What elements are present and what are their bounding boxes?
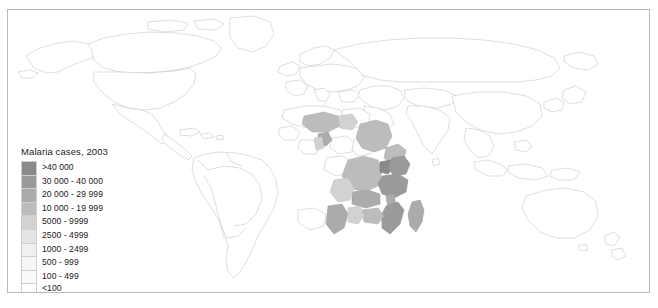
legend-swatch-20000-29999 (21, 188, 37, 202)
legend-swatch-5000-9999 (21, 215, 37, 229)
legend-swatch-under-100 (21, 283, 37, 293)
legend-item: <100 No reported deaths from malaria (21, 283, 145, 293)
region-ghana (314, 137, 324, 150)
region-sudan (356, 120, 392, 152)
legend-label-2500-4999: 2500 - 4999 (37, 229, 88, 243)
legend-label-5000-9999: 5000 - 9999 (37, 215, 88, 229)
legend-item: 10 000 - 19 999 (21, 202, 145, 216)
legend-item: 5000 - 9999 (21, 215, 145, 229)
legend-item: 2500 - 4999 (21, 229, 145, 243)
legend-label-over-40000: >40 000 (37, 161, 74, 175)
legend-item: 30 000 - 40 000 (21, 175, 145, 189)
legend-label-20000-29999: 20 000 - 29 999 (37, 188, 103, 202)
legend-swatch-over-40000 (21, 161, 37, 175)
legend-item: 1000 - 2499 (21, 243, 145, 257)
legend-label-100-499: 100 - 499 (37, 270, 79, 284)
malaria-map-figure: Malaria cases, 2003 >40 000 30 000 - 40 … (0, 0, 658, 308)
map-frame: Malaria cases, 2003 >40 000 30 000 - 40 … (7, 9, 650, 293)
region-zambia (352, 190, 380, 208)
legend-label-500-999: 500 - 999 (37, 256, 79, 270)
map-legend: Malaria cases, 2003 >40 000 30 000 - 40 … (21, 146, 145, 293)
legend-label-under-100: <100 No reported deaths from malaria (37, 283, 116, 293)
legend-item: 500 - 999 (21, 256, 145, 270)
legend-title: Malaria cases, 2003 (21, 146, 145, 158)
legend-swatch-30000-40000 (21, 175, 37, 189)
legend-label-under-100-line1: <100 (42, 284, 116, 293)
legend-label-30000-40000: 30 000 - 40 000 (37, 175, 103, 189)
legend-item: >40 000 (21, 161, 145, 175)
legend-swatch-100-499 (21, 270, 37, 284)
region-canadian-arctic (148, 20, 188, 32)
legend-swatch-10000-19999 (21, 202, 37, 216)
legend-label-1000-2499: 1000 - 2499 (37, 243, 88, 257)
legend-label-10000-19999: 10 000 - 19 999 (37, 202, 103, 216)
legend-swatch-500-999 (21, 256, 37, 270)
legend-swatch-1000-2499 (21, 243, 37, 257)
legend-item: 100 - 499 (21, 270, 145, 284)
legend-swatch-2500-4999 (21, 229, 37, 243)
legend-item: 20 000 - 29 999 (21, 188, 145, 202)
